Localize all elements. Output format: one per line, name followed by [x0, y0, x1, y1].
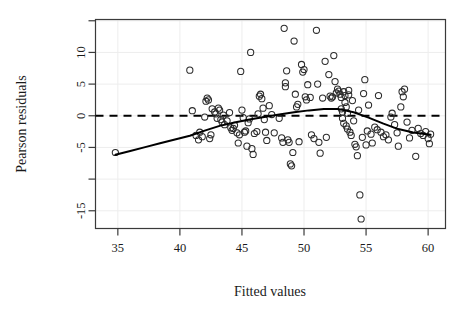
- data-point: [385, 137, 391, 143]
- x-axis-tick-label: 50: [298, 241, 311, 255]
- data-point: [316, 139, 322, 145]
- data-point: [305, 82, 311, 88]
- data-point: [404, 119, 410, 125]
- data-point: [288, 163, 294, 169]
- y-axis-tick-label: -15: [75, 202, 89, 219]
- data-point: [207, 135, 213, 141]
- data-point: [187, 67, 193, 73]
- data-point: [362, 77, 368, 83]
- data-point: [354, 153, 360, 159]
- residual-plot-figure: 354045505560 1050-5-15 Fitted values Pea…: [0, 0, 471, 311]
- data-point: [398, 104, 404, 110]
- data-point: [271, 130, 277, 136]
- data-point: [413, 153, 419, 159]
- x-axis-ticks: [118, 229, 428, 236]
- y-axis-tick-labels: 1050-5-15: [75, 46, 89, 219]
- data-point: [235, 140, 241, 146]
- plot-frame: [96, 20, 446, 229]
- data-point: [281, 25, 287, 31]
- data-point: [346, 92, 352, 98]
- data-point: [243, 128, 249, 134]
- data-point: [357, 192, 363, 198]
- data-point: [369, 140, 375, 146]
- y-axis-title: Pearson residuals: [14, 75, 29, 173]
- plot-canvas: 354045505560 1050-5-15 Fitted values Pea…: [0, 0, 471, 311]
- data-point: [264, 137, 270, 143]
- data-point: [250, 151, 256, 157]
- data-point: [331, 53, 337, 59]
- x-axis-tick-label: 60: [422, 241, 435, 255]
- data-point: [358, 216, 364, 222]
- x-axis-tick-label: 35: [112, 241, 125, 255]
- x-axis-tick-labels: 354045505560: [112, 241, 435, 255]
- y-axis-tick-label: 10: [75, 46, 89, 59]
- data-point: [322, 58, 328, 64]
- y-axis-ticks: [89, 21, 96, 211]
- x-axis-title: Fitted values: [234, 284, 306, 299]
- data-point: [290, 149, 296, 155]
- data-point: [406, 135, 412, 141]
- data-point: [394, 130, 400, 136]
- data-point: [320, 95, 326, 101]
- data-point: [323, 134, 329, 140]
- data-point: [375, 92, 381, 98]
- data-point: [292, 91, 298, 97]
- data-point: [189, 108, 195, 114]
- data-point: [249, 146, 255, 152]
- x-axis-tick-label: 40: [174, 241, 187, 255]
- data-point: [359, 134, 365, 140]
- y-axis-tick-label: 0: [75, 113, 89, 119]
- data-point: [291, 38, 297, 44]
- data-point: [262, 129, 268, 135]
- data-point: [238, 68, 244, 74]
- data-point: [326, 72, 332, 78]
- grid-lines: [96, 20, 446, 229]
- data-point: [296, 139, 302, 145]
- y-axis-tick-label: 5: [75, 81, 89, 87]
- data-point: [226, 110, 232, 116]
- data-point: [351, 118, 357, 124]
- data-point: [284, 68, 290, 74]
- data-point: [202, 114, 208, 120]
- x-axis-tick-label: 45: [236, 241, 249, 255]
- y-axis-tick-label: -5: [75, 142, 89, 152]
- data-point: [317, 150, 323, 156]
- data-point: [208, 132, 214, 138]
- x-axis-tick-label: 55: [360, 241, 373, 255]
- data-point: [313, 27, 319, 33]
- data-point: [349, 97, 355, 103]
- data-point: [266, 103, 272, 109]
- data-point: [395, 143, 401, 149]
- data-point: [260, 105, 266, 111]
